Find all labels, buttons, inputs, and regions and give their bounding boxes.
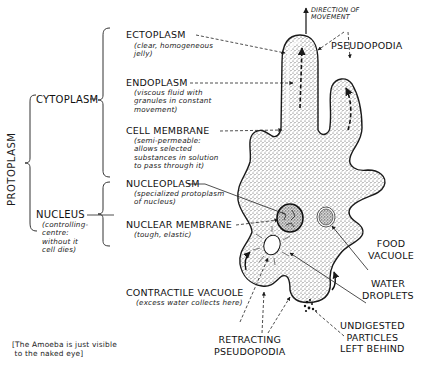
- endoplasm-note: (viscous fluid with granules in constant…: [134, 89, 212, 114]
- amoeba-body: [238, 35, 385, 303]
- food-vacuole-shape: [317, 207, 335, 227]
- protoplasm-label: PROTOPLASM: [6, 133, 17, 206]
- ectoplasm-note: (clear, homogeneous jelly): [134, 42, 213, 59]
- amoeba-diagram: DIRECTION OF MOVEMENT PROTOPLASM CYTOPLA…: [0, 0, 424, 372]
- contractile-vacuole-note: (excess water collects here): [136, 299, 243, 307]
- direction-of-movement-label: DIRECTION OF MOVEMENT: [311, 7, 359, 21]
- pseudopodia-label: PSEUDOPODIA: [331, 40, 403, 51]
- cytoplasm-label: CYTOPLASM: [36, 94, 98, 105]
- cell-membrane-label: CELL MEMBRANE: [126, 125, 210, 136]
- contractile-vacuole-label: CONTRACTILE VACUOLE: [126, 287, 244, 298]
- nuclear-membrane-note: (tough, elastic): [134, 231, 192, 239]
- nucleoplasm-label: NUCLEOPLASM: [126, 178, 200, 189]
- footnote: [The Amoeba is just visible to the naked…: [12, 341, 117, 358]
- water-droplets-label: WATER DROPLETS: [362, 278, 414, 302]
- nuclear-membrane-label: NUCLEAR MEMBRANE: [126, 219, 232, 230]
- nucleus-note: (controlling- centre: without it cell di…: [42, 221, 88, 254]
- ectoplasm-label: ECTOPLASM: [126, 29, 186, 40]
- nucleoplasm-note: (specialized protoplasm of nucleus): [134, 190, 224, 207]
- food-vacuole-label: FOOD VACUOLE: [368, 238, 414, 262]
- retracting-pseudopodia-label: RETRACTING PSEUDOPODIA: [214, 334, 286, 358]
- endoplasm-label: ENDOPLASM: [126, 77, 188, 88]
- nucleus-label: NUCLEUS: [36, 209, 85, 220]
- undigested-particles-label: UNDIGESTED PARTICLES LEFT BEHIND: [340, 320, 405, 355]
- nucleus-shape: [277, 204, 303, 232]
- cell-membrane-note: (semi-permeable: allows selected substan…: [134, 137, 219, 170]
